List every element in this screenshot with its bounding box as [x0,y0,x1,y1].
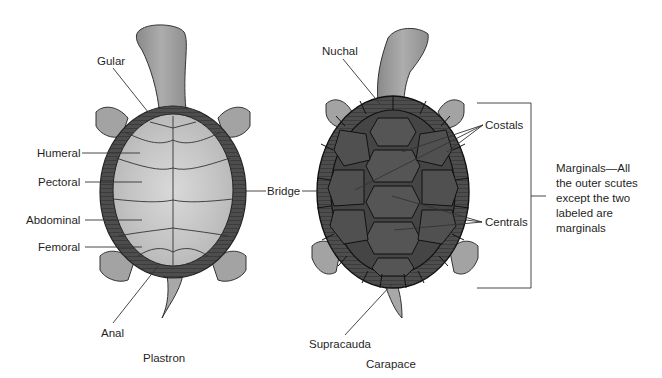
label-nuchal: Nuchal [322,44,358,58]
carapace-illustration [312,28,478,318]
caption-carapace: Carapace [366,357,416,371]
turtle-shell-diagram: Gular Humeral Pectoral Abdominal Femoral… [0,0,662,378]
label-anal: Anal [101,326,124,340]
label-costals: Costals [485,118,523,132]
label-centrals: Centrals [485,215,528,229]
label-supracauda: Supracauda [309,337,371,351]
label-gular: Gular [97,54,125,68]
label-pectoral: Pectoral [38,175,80,189]
label-bridge: Bridge [267,184,300,198]
caption-plastron: Plastron [143,351,185,365]
label-abdominal: Abdominal [26,213,80,227]
label-humeral: Humeral [37,146,80,160]
plastron-neck [136,25,186,118]
label-femoral: Femoral [38,240,80,254]
marginals-note: Marginals—All the outer scutes except th… [556,161,638,236]
plastron-illustration [96,25,250,318]
carapace-neck [377,28,428,104]
